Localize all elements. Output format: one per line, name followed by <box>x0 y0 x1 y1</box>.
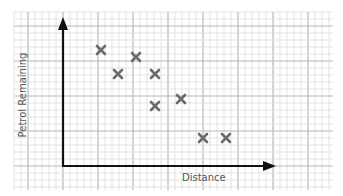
data-point-x-marker <box>151 70 159 78</box>
y-axis-label: Petrol Remaining <box>17 53 28 138</box>
data-point-x-marker <box>114 70 122 78</box>
x-axis-arrow-icon <box>263 161 276 171</box>
scatter-chart <box>0 0 343 196</box>
x-axis-label: Distance <box>182 172 226 183</box>
